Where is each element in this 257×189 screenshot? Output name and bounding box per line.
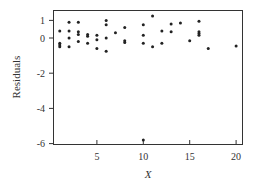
- data-point: [105, 37, 108, 40]
- data-point: [197, 20, 200, 23]
- data-point: [77, 33, 80, 36]
- data-point: [95, 47, 98, 50]
- x-axis-label: X: [144, 168, 153, 180]
- data-point: [58, 29, 61, 32]
- data-point: [151, 45, 154, 48]
- data-point: [68, 37, 71, 40]
- y-tick-label: -4: [37, 103, 45, 114]
- y-axis-ticks: 10-2-4-6: [37, 15, 54, 149]
- y-tick-label: -2: [37, 68, 45, 79]
- data-point: [86, 42, 89, 45]
- data-point: [95, 34, 98, 37]
- data-point: [160, 42, 163, 45]
- data-point: [77, 40, 80, 43]
- data-point: [151, 15, 154, 18]
- data-point: [197, 34, 200, 37]
- y-axis-label: Residuals: [10, 56, 22, 99]
- plot-frame: [54, 11, 243, 145]
- x-tick-label: 5: [94, 151, 99, 162]
- x-tick-label: 20: [231, 151, 241, 162]
- data-points: [58, 15, 237, 142]
- data-point: [77, 21, 80, 24]
- data-point: [77, 30, 80, 33]
- data-point: [142, 42, 145, 45]
- data-point: [123, 41, 126, 44]
- data-point: [170, 22, 173, 25]
- data-point: [105, 23, 108, 26]
- residual-scatter-plot: 10-2-4-6 5101520 X Residuals: [0, 0, 257, 189]
- data-point: [142, 23, 145, 26]
- data-point: [142, 139, 145, 142]
- data-point: [86, 35, 89, 38]
- x-axis-ticks: 5101520: [94, 140, 241, 162]
- y-tick-label: 1: [40, 15, 45, 26]
- data-point: [235, 44, 238, 47]
- data-point: [170, 30, 173, 33]
- data-point: [142, 34, 145, 37]
- data-point: [179, 22, 182, 25]
- data-point: [58, 45, 61, 48]
- y-tick-label: 0: [40, 33, 45, 44]
- data-point: [105, 19, 108, 22]
- data-point: [68, 45, 71, 48]
- x-tick-label: 10: [138, 151, 148, 162]
- y-tick-label: -6: [37, 138, 45, 149]
- data-point: [68, 29, 71, 32]
- data-point: [188, 39, 191, 42]
- data-point: [105, 50, 108, 53]
- data-point: [95, 38, 98, 41]
- data-point: [68, 21, 71, 24]
- data-point: [123, 26, 126, 29]
- x-tick-label: 15: [185, 151, 195, 162]
- data-point: [160, 29, 163, 32]
- data-point: [114, 31, 117, 34]
- data-point: [207, 47, 210, 50]
